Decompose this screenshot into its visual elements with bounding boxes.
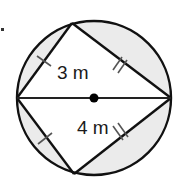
label-upper-side: 3 m <box>57 62 89 83</box>
label-lower-side: 4 m <box>77 117 109 138</box>
center-point <box>90 94 99 103</box>
stray-mark <box>1 28 4 31</box>
circle-diagram: 3 m 4 m <box>0 0 177 184</box>
